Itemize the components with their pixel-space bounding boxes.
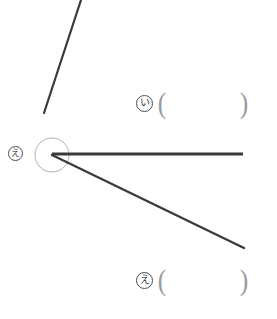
lower-ray-line — [52, 155, 244, 248]
vertex-angle-label: え — [8, 146, 23, 161]
answer-blank-e[interactable] — [167, 280, 239, 281]
upper-ray-line — [44, 0, 81, 113]
answer-row-i: い ( ) — [136, 88, 249, 118]
vertex-angle-mark: え — [8, 146, 23, 161]
worksheet-page: え い ( ) え ( ) — [0, 0, 277, 319]
open-paren-i: ( — [158, 88, 167, 118]
close-paren-e: ) — [240, 265, 249, 295]
close-paren-i: ) — [240, 88, 249, 118]
answer-mark-i: い — [136, 95, 153, 112]
open-paren-e: ( — [158, 265, 167, 295]
answer-row-e: え ( ) — [136, 265, 249, 295]
answer-mark-e: え — [136, 272, 153, 289]
answer-blank-i[interactable] — [167, 103, 239, 104]
